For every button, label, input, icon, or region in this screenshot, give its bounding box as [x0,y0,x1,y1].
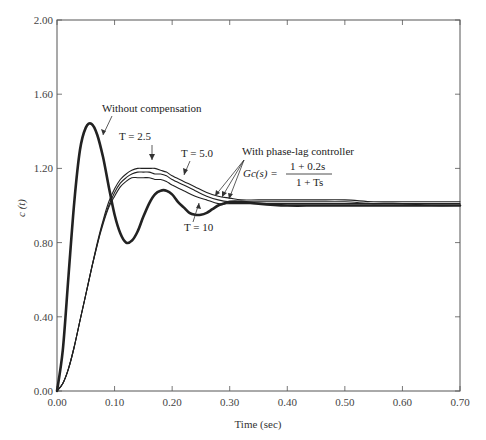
axes: 0.000.100.200.300.400.500.600.700.000.40… [34,14,470,408]
y-tick-label: 0.00 [34,385,54,397]
y-tick-label: 2.00 [34,14,54,26]
x-axis-title: Time (sec) [235,418,282,431]
annotations: Without compensation T = 2.5 T = 5.0 T =… [101,102,354,233]
annotation-phase-lag: With phase-lag controller [242,145,354,157]
annotation-gc-lhs: Gc(s) = [243,167,278,180]
curve-t-10 [57,177,460,391]
x-tick-label: 0.10 [105,396,125,408]
x-tick-label: 0.40 [278,396,298,408]
annotation-without-compensation: Without compensation [102,102,202,114]
response-curves [57,123,460,391]
y-tick-label: 1.60 [34,88,54,100]
y-axis-title: c (t) [15,199,28,217]
y-tick-label: 0.80 [34,237,54,249]
y-tick-label: 1.20 [34,162,54,174]
annotation-t-5-0: T = 5.0 [181,147,213,159]
curve-without-compensation [57,123,460,391]
annotation-gc-num: 1 + 0.2s [290,160,325,172]
step-response-chart: 0.000.100.200.300.400.500.600.700.000.40… [0,0,486,440]
x-tick-label: 0.70 [450,396,470,408]
x-tick-label: 0.50 [335,396,355,408]
annotation-t-10: T = 10 [184,221,214,233]
x-tick-label: 0.60 [393,396,413,408]
x-tick-label: 0.20 [163,396,183,408]
x-tick-label: 0.30 [220,396,240,408]
y-tick-label: 0.40 [34,311,54,323]
annotation-t-2-5: T = 2.5 [119,130,151,142]
x-tick-label: 0.00 [47,396,67,408]
annotation-gc-den: 1 + Ts [296,176,323,188]
